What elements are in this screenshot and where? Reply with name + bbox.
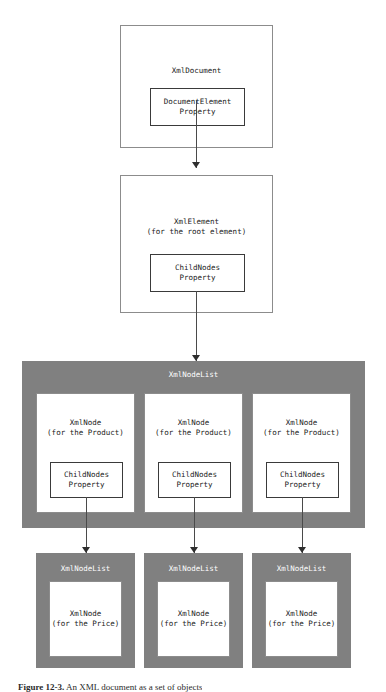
xmlnode-product-title-1: XmlNode (for the Product): [37, 418, 134, 438]
figure-caption-label: Figure 12-3.: [18, 682, 64, 692]
xmlnode-price-label-3: XmlNode (for the Price): [268, 609, 336, 629]
childnodes-property-label-product-1: ChildNodes Property: [64, 470, 109, 490]
xmlnode-price-box-1: XmlNode (for the Price): [49, 581, 122, 657]
xmlnodelist-price-title-3: XmlNodeList: [252, 564, 351, 574]
connector-product-2-to-pricelist: [194, 497, 195, 553]
documentelement-property-label: DocumentElement Property: [164, 97, 232, 117]
xmlnodelist-price-container-3: XmlNodeList XmlNode (for the Price): [252, 553, 351, 668]
childnodes-property-box-product-2: ChildNodes Property: [158, 462, 231, 498]
xmlnode-price-box-3: XmlNode (for the Price): [265, 581, 338, 657]
childnodes-property-box-root: ChildNodes Property: [150, 254, 245, 292]
arrowhead-document-to-element: [192, 162, 200, 168]
xmlnode-product-box-1: XmlNode (for the Product) ChildNodes Pro…: [36, 393, 135, 513]
xmlnodelist-title: XmlNodeList: [22, 370, 365, 380]
childnodes-property-label-product-3: ChildNodes Property: [280, 470, 325, 490]
xmldocument-title: XmlDocument: [121, 66, 272, 76]
figure-caption-text: An XML document as a set of objects: [64, 682, 202, 692]
figure-caption: Figure 12-3. An XML document as a set of…: [18, 682, 202, 692]
xmlnodelist-price-title-1: XmlNodeList: [36, 564, 135, 574]
xmlnode-price-label-2: XmlNode (for the Price): [160, 609, 228, 629]
childnodes-property-label-root: ChildNodes Property: [175, 263, 220, 283]
xmlnodelist-price-container-2: XmlNodeList XmlNode (for the Price): [144, 553, 243, 668]
xmlnode-product-title-3: XmlNode (for the Product): [253, 418, 350, 438]
xmlnode-price-label-1: XmlNode (for the Price): [52, 609, 120, 629]
connector-document-to-element: [196, 100, 197, 168]
xmlnode-product-box-2: XmlNode (for the Product) ChildNodes Pro…: [144, 393, 243, 513]
childnodes-property-box-product-3: ChildNodes Property: [266, 462, 339, 498]
xmlelement-title: XmlElement (for the root element): [121, 217, 272, 237]
connector-product-3-to-pricelist: [302, 497, 303, 553]
documentelement-property-box: DocumentElement Property: [150, 88, 245, 126]
connector-product-1-to-pricelist: [86, 497, 87, 553]
xmlnode-product-box-3: XmlNode (for the Product) ChildNodes Pro…: [252, 393, 351, 513]
connector-element-to-nodelist: [196, 291, 197, 361]
childnodes-property-label-product-2: ChildNodes Property: [172, 470, 217, 490]
childnodes-property-box-product-1: ChildNodes Property: [50, 462, 123, 498]
xmlnode-product-title-2: XmlNode (for the Product): [145, 418, 242, 438]
xmlnodelist-price-container-1: XmlNodeList XmlNode (for the Price): [36, 553, 135, 668]
xmlnodelist-price-title-2: XmlNodeList: [144, 564, 243, 574]
xmlnode-price-box-2: XmlNode (for the Price): [157, 581, 230, 657]
